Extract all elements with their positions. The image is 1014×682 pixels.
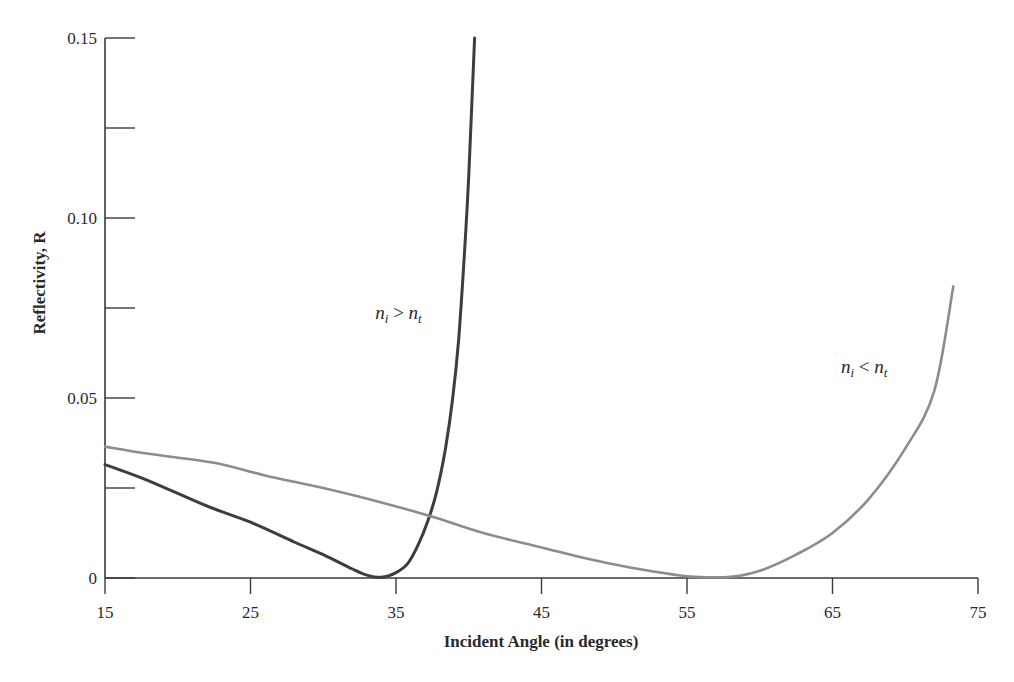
x-tick-label: 55 bbox=[679, 603, 696, 622]
series-lines bbox=[105, 38, 953, 577]
x-axis-title: Incident Angle (in degrees) bbox=[444, 632, 639, 651]
y-tick-label: 0.10 bbox=[67, 209, 97, 228]
y-tick-label: 0.05 bbox=[67, 389, 97, 408]
y-axis-title: Reflectivity, R bbox=[30, 231, 49, 335]
reflectivity-chart: 00.050.100.15 15253545556575 Incident An… bbox=[0, 0, 1014, 682]
x-axis: 15253545556575 bbox=[97, 578, 987, 622]
y-tick-label: 0 bbox=[89, 569, 98, 588]
x-tick-label: 65 bbox=[824, 603, 841, 622]
curve-ni-less-nt bbox=[105, 286, 953, 577]
x-tick-label: 15 bbox=[97, 603, 114, 622]
annotation-ni-less-nt: ni < nt bbox=[841, 356, 888, 380]
y-axis: 00.050.100.15 bbox=[67, 29, 135, 588]
x-tick-label: 35 bbox=[388, 603, 405, 622]
x-tick-label: 45 bbox=[533, 603, 550, 622]
annotation-ni-greater-nt: ni > nt bbox=[375, 302, 422, 326]
curve-ni-greater-nt bbox=[105, 38, 475, 577]
x-tick-label: 25 bbox=[242, 603, 259, 622]
y-tick-label: 0.15 bbox=[67, 29, 97, 48]
x-tick-label: 75 bbox=[970, 603, 987, 622]
